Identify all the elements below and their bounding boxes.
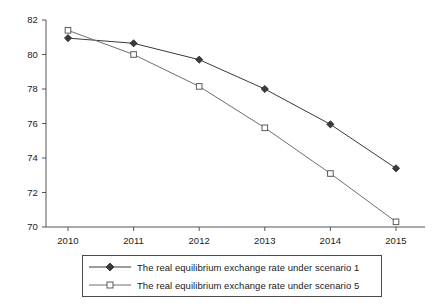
data-point-square — [262, 125, 268, 131]
legend-label-scenario-5: The real equilibrium exchange rate under… — [137, 280, 359, 291]
data-point-diamond — [196, 56, 203, 63]
series-line — [68, 38, 396, 168]
data-point-square — [196, 84, 202, 90]
data-point-diamond — [392, 165, 399, 172]
x-tick-label: 2011 — [114, 235, 154, 246]
legend-marker-diamond-icon — [83, 261, 137, 273]
data-point-square — [393, 219, 399, 225]
x-tick-label: 2010 — [48, 235, 88, 246]
series-line — [68, 30, 396, 221]
y-tick-label: 70 — [16, 221, 38, 232]
data-point-diamond — [261, 85, 268, 92]
series-scenario-1 — [64, 35, 399, 172]
data-point-square — [65, 28, 71, 34]
data-point-square — [328, 171, 334, 177]
y-tick-label: 76 — [16, 118, 38, 129]
x-axis-ticks — [68, 227, 396, 231]
x-tick-label: 2015 — [376, 235, 416, 246]
chart-legend: The real equilibrium exchange rate under… — [82, 255, 382, 297]
data-point-diamond — [327, 121, 334, 128]
y-tick-label: 80 — [16, 49, 38, 60]
y-tick-label: 72 — [16, 187, 38, 198]
legend-marker-square-icon — [83, 279, 137, 291]
data-point-square — [131, 52, 137, 58]
y-tick-label: 82 — [16, 14, 38, 25]
data-point-diamond — [64, 35, 71, 42]
x-tick-label: 2013 — [245, 235, 285, 246]
series-scenario-5 — [65, 28, 399, 225]
y-tick-label: 78 — [16, 83, 38, 94]
line-chart: 70727476788082 201020112012201320142015 … — [0, 0, 441, 307]
data-point-diamond — [130, 40, 137, 47]
y-axis-ticks — [42, 20, 46, 227]
y-tick-label: 74 — [16, 152, 38, 163]
legend-item-scenario-5[interactable]: The real equilibrium exchange rate under… — [83, 276, 381, 294]
x-tick-label: 2012 — [179, 235, 219, 246]
legend-item-scenario-1[interactable]: The real equilibrium exchange rate under… — [83, 258, 381, 276]
x-tick-label: 2014 — [310, 235, 350, 246]
legend-label-scenario-1: The real equilibrium exchange rate under… — [137, 262, 359, 273]
